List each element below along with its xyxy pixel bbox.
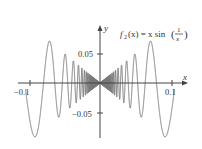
function-title: f 2 (x) = x sin ( 1 x ) [120, 26, 188, 43]
y-axis-arrow-icon [98, 25, 103, 31]
y-tick-label-neg: −0.05 [72, 109, 92, 119]
frac-denominator: x [175, 35, 180, 43]
x-axis-label: x [182, 72, 187, 82]
paren-close: ) [184, 28, 188, 41]
y-axis-label: y [103, 23, 108, 33]
paren-open: ( [171, 28, 175, 41]
func-subscript: 2 [124, 34, 127, 40]
frac-numerator: 1 [177, 26, 181, 34]
x-tick-label-pos: 0.1 [165, 87, 176, 97]
chart: x y −0.1 0.1 0.05 −0.05 f 2 (x) = x sin … [0, 0, 202, 149]
y-tick-label-pos: 0.05 [78, 49, 93, 59]
func-rest: (x) = x sin [128, 29, 166, 39]
x-tick-label-neg: −0.1 [14, 87, 29, 97]
